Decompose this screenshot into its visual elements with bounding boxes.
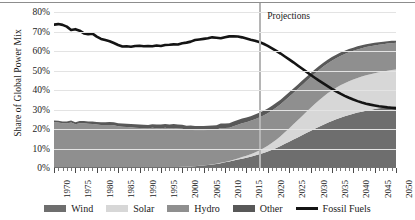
x-axis-minor-tick	[383, 168, 384, 171]
x-axis-minor-tick	[88, 168, 89, 171]
x-axis-tick-label: 1995	[169, 180, 179, 198]
x-axis-minor-tick	[272, 168, 273, 171]
x-axis-tick-label: 2045	[383, 180, 393, 198]
legend-swatch-icon	[44, 205, 66, 212]
grid-line	[54, 149, 396, 150]
x-axis-minor-tick	[127, 168, 128, 171]
grid-line	[54, 90, 396, 91]
x-axis-minor-tick	[63, 168, 64, 171]
y-axis-tick-label: 60%	[33, 46, 50, 56]
x-axis-minor-tick	[212, 168, 213, 171]
x-axis-minor-tick	[84, 168, 85, 171]
x-axis-tick-label: 2020	[276, 180, 286, 198]
legend-label: Fossil Fuels	[323, 203, 371, 214]
x-axis-tick-label: 2035	[340, 180, 350, 198]
x-axis-minor-tick	[285, 168, 286, 171]
legend-label: Solar	[133, 203, 154, 214]
x-axis-minor-tick	[101, 168, 102, 171]
x-axis-tick-label: 2005	[212, 180, 222, 198]
x-axis-minor-tick	[293, 168, 294, 171]
x-axis-tick-labels: 1970197519801985199019952000200520102015…	[54, 172, 396, 198]
x-axis-minor-tick	[349, 168, 350, 171]
x-axis-minor-tick	[152, 168, 153, 171]
legend-item-wind[interactable]: Wind	[44, 203, 93, 214]
x-axis-tick-label: 2010	[233, 180, 243, 198]
grid-line	[54, 110, 396, 111]
chart-container: Share of Global Power Mix 0%10%20%30%40%…	[0, 0, 415, 220]
x-axis-minor-tick	[238, 168, 239, 171]
x-axis-minor-tick	[221, 168, 222, 171]
legend-label: Other	[260, 203, 283, 214]
x-axis-minor-tick	[345, 168, 346, 171]
legend-item-other[interactable]: Other	[233, 203, 283, 214]
legend-swatch-icon	[296, 207, 318, 210]
x-axis-minor-tick	[131, 168, 132, 171]
x-axis-minor-tick	[199, 168, 200, 171]
legend-swatch-icon	[106, 205, 128, 212]
x-axis-minor-tick	[105, 168, 106, 171]
x-axis-tick-label: 2015	[254, 180, 264, 198]
x-axis-tick-label: 1970	[62, 180, 72, 198]
x-axis-tick-label: 1975	[83, 180, 93, 198]
x-axis-minor-tick	[122, 168, 123, 171]
x-axis-minor-tick	[187, 168, 188, 171]
x-axis-minor-tick	[328, 168, 329, 171]
x-axis-tick-label: 1985	[126, 180, 136, 198]
x-axis-minor-tick	[195, 168, 196, 171]
x-axis-minor-tick	[251, 168, 252, 171]
x-axis-minor-tick	[392, 168, 393, 171]
x-axis-minor-tick	[229, 168, 230, 171]
legend-item-hydro[interactable]: Hydro	[167, 203, 220, 214]
x-axis-minor-tick	[92, 168, 93, 171]
x-axis-tick-label: 2000	[190, 180, 200, 198]
chart-legend: WindSolarHydroOtherFossil Fuels	[0, 200, 415, 216]
x-axis-tick-label: 1980	[105, 180, 115, 198]
x-axis-tick-label: 1990	[148, 180, 158, 198]
x-axis-minor-tick	[276, 168, 277, 171]
x-axis-minor-tick	[148, 168, 149, 171]
x-axis-minor-tick	[71, 168, 72, 171]
x-axis-minor-tick	[336, 168, 337, 171]
x-axis-minor-tick	[191, 168, 192, 171]
y-axis-tick-label: 50%	[33, 66, 50, 76]
legend-swatch-icon	[167, 205, 189, 212]
x-axis-minor-tick	[216, 168, 217, 171]
x-axis-minor-tick	[263, 168, 264, 171]
legend-item-fossil-fuels[interactable]: Fossil Fuels	[296, 203, 371, 214]
x-axis-minor-tick	[157, 168, 158, 171]
x-axis-minor-tick	[387, 168, 388, 171]
x-axis-tick-label: 2030	[319, 180, 329, 198]
x-axis-minor-tick	[178, 168, 179, 171]
legend-label: Wind	[71, 203, 93, 214]
x-axis-minor-tick	[110, 168, 111, 171]
x-axis-minor-tick	[135, 168, 136, 171]
x-axis-minor-tick	[174, 168, 175, 171]
x-axis-minor-tick	[379, 168, 380, 171]
grid-line	[54, 12, 396, 13]
x-axis-minor-tick	[323, 168, 324, 171]
legend-swatch-icon	[233, 205, 255, 212]
x-axis-minor-tick	[208, 168, 209, 171]
x-axis-tick-label: 2040	[361, 180, 371, 198]
x-axis-minor-tick	[255, 168, 256, 171]
x-axis-minor-tick	[315, 168, 316, 171]
x-axis-minor-tick	[319, 168, 320, 171]
x-axis-minor-tick	[370, 168, 371, 171]
y-axis-tick-labels: 0%10%20%30%40%50%60%70%80%	[16, 8, 50, 168]
x-axis-minor-tick	[366, 168, 367, 171]
plot-area	[54, 12, 396, 168]
x-axis-tick-label: 2050	[404, 180, 414, 198]
y-axis-tick-label: 80%	[33, 7, 50, 17]
x-axis-minor-tick	[114, 168, 115, 171]
x-axis-minor-tick	[67, 168, 68, 171]
y-axis-tick-label: 0%	[37, 163, 50, 173]
x-axis-minor-tick	[58, 168, 59, 171]
y-axis-tick-label: 10%	[33, 144, 50, 154]
x-axis-minor-tick	[298, 168, 299, 171]
y-axis-tick-label: 20%	[33, 124, 50, 134]
top-border-rule	[0, 2, 415, 3]
y-axis-tick-label: 30%	[33, 105, 50, 115]
legend-item-solar[interactable]: Solar	[106, 203, 154, 214]
x-axis-minor-tick	[358, 168, 359, 171]
x-axis-tick-label: 2025	[297, 180, 307, 198]
